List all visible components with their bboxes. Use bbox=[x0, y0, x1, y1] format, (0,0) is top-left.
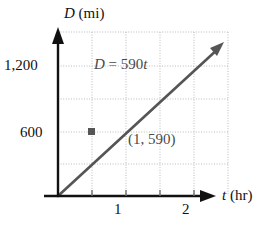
x-axis bbox=[44, 190, 216, 202]
equation-mid: = 590 bbox=[105, 56, 143, 72]
y-axis-unit: (mi) bbox=[79, 5, 105, 21]
y-tick-label-1200: 1,200 bbox=[4, 58, 38, 73]
y-axis-variable: D bbox=[64, 5, 75, 21]
y-axis bbox=[52, 27, 64, 196]
x-axis-title: t (hr) bbox=[222, 188, 252, 203]
x-tick-label-2: 2 bbox=[182, 202, 190, 217]
x-axis-unit: (hr) bbox=[230, 187, 253, 203]
equation-rhs: t bbox=[143, 56, 147, 72]
equation-lhs: D bbox=[94, 56, 105, 72]
equation-annotation: D = 590t bbox=[94, 57, 147, 72]
y-tick-label-600: 600 bbox=[20, 125, 43, 140]
y-axis-arrowhead bbox=[52, 27, 64, 44]
point-coordinate-label: (1, 590) bbox=[128, 132, 176, 147]
chart-figure: D (mi) t (hr) 1,200 600 1 2 D = 590t (1,… bbox=[0, 0, 260, 226]
data-point-marker bbox=[88, 128, 95, 135]
x-tick-label-1: 1 bbox=[114, 202, 122, 217]
chart-canvas bbox=[0, 0, 260, 226]
y-axis-title: D (mi) bbox=[64, 6, 104, 21]
x-axis-arrowhead bbox=[200, 190, 216, 202]
